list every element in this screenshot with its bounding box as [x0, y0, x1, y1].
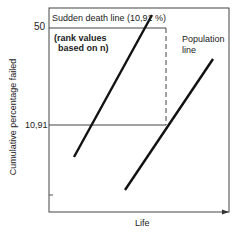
population-label-2: line: [182, 45, 196, 55]
rank-note-1: (rank values: [54, 33, 107, 43]
x-axis-arrow-icon: [222, 210, 229, 215]
y-tick-10-91: 10,91: [25, 120, 48, 130]
x-axis-label: Life: [135, 218, 150, 228]
population-label-1: Population: [182, 34, 225, 44]
sudden-death-label: Sudden death line (10,91 %): [52, 13, 166, 23]
rank-note-2: based on n): [58, 43, 109, 53]
y-tick-50: 50: [34, 22, 45, 32]
y-axis-label: Cumulative percentage failed: [8, 52, 18, 182]
